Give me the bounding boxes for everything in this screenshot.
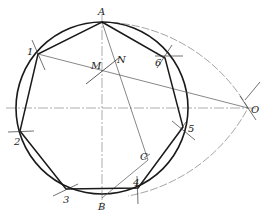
line-1-to-O <box>38 54 248 108</box>
construction-arc-large <box>102 22 248 196</box>
label-N: N <box>116 54 127 65</box>
heptagon <box>20 22 183 189</box>
label-O: O <box>251 104 259 115</box>
line-A-to-C <box>102 22 148 160</box>
label-1: 1 <box>27 46 33 57</box>
label-C: C <box>140 151 148 162</box>
heptagon-construction-diagram: A B C M N O 1 2 3 4 5 6 <box>0 0 267 216</box>
label-6: 6 <box>155 57 162 68</box>
line-C-to-B <box>102 160 148 198</box>
diagram-canvas: A B C M N O 1 2 3 4 5 6 <box>0 0 267 216</box>
tick-2 <box>8 131 34 132</box>
label-5: 5 <box>188 123 194 134</box>
tick-Ob <box>245 82 260 100</box>
label-3: 3 <box>63 194 69 205</box>
label-B: B <box>97 201 105 212</box>
label-4: 4 <box>132 177 139 188</box>
label-A: A <box>97 6 105 17</box>
label-2: 2 <box>13 136 20 147</box>
label-M: M <box>90 60 102 71</box>
